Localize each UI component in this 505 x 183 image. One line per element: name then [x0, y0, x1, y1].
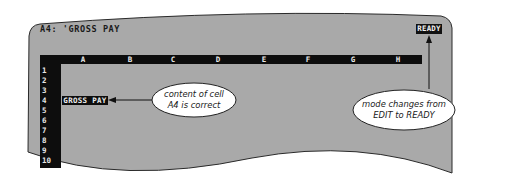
row-header-5[interactable]: 5	[42, 106, 47, 115]
column-header-e[interactable]: E	[259, 55, 269, 64]
column-header-bar: A B C D E F G H	[40, 55, 422, 64]
cell-a4[interactable]: GROSS PAY	[62, 96, 108, 105]
callout-mode-line1: mode changes from	[353, 99, 455, 110]
row-header-10[interactable]: 10	[42, 156, 51, 165]
callout-cell-line1: content of cell	[152, 89, 236, 100]
column-header-b[interactable]: B	[125, 55, 135, 64]
callout-mode-line2: EDIT to READY	[353, 110, 455, 121]
column-header-a[interactable]: A	[78, 55, 88, 64]
column-header-g[interactable]: G	[348, 55, 358, 64]
column-header-h[interactable]: H	[393, 55, 403, 64]
row-header-7[interactable]: 7	[42, 126, 47, 135]
row-header-6[interactable]: 6	[42, 116, 47, 125]
column-header-f[interactable]: F	[303, 55, 313, 64]
figure: A4: 'GROSS PAY READY A B C D E F G H 1 2…	[0, 0, 505, 183]
column-header-d[interactable]: D	[213, 55, 223, 64]
row-header-4[interactable]: 4	[42, 96, 47, 105]
callout-mode-change: mode changes from EDIT to READY	[353, 99, 455, 120]
row-header-2[interactable]: 2	[42, 76, 47, 85]
callout-cell-content: content of cell A4 is correct	[152, 89, 236, 110]
column-header-c[interactable]: C	[168, 55, 178, 64]
row-header-1[interactable]: 1	[42, 66, 47, 75]
callout-cell-line2: A4 is correct	[152, 100, 236, 111]
row-header-9[interactable]: 9	[42, 146, 47, 155]
row-header-3[interactable]: 3	[42, 86, 47, 95]
cell-status-line: A4: 'GROSS PAY	[40, 24, 120, 34]
mode-indicator: READY	[416, 24, 442, 34]
row-header-8[interactable]: 8	[42, 136, 47, 145]
row-header-strip: 1 2 3 4 5 6 7 8 9 10	[40, 64, 61, 168]
